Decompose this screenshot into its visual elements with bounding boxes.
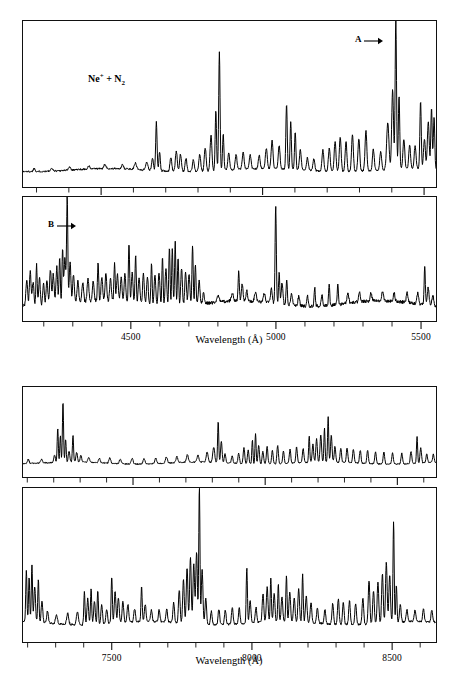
annotation-arrow-A <box>364 36 384 46</box>
axis-title-upper: Wavelength (Å) <box>195 334 262 345</box>
spectrum-panel-4 <box>22 487 437 643</box>
system-label-plus: + N <box>104 73 122 84</box>
system-label: Ne+ + N2 <box>88 72 125 87</box>
spectrum-trace-2 <box>23 197 436 321</box>
annotation-label-A: A <box>355 34 362 44</box>
spectrum-axis-2 <box>22 322 437 332</box>
axis-tick-label: 5000 <box>266 332 286 342</box>
annotation-label-B: B <box>48 219 54 229</box>
system-label-n2-sub: 2 <box>122 79 126 87</box>
spectrum-trace-4 <box>23 488 436 642</box>
axis-title-lower: Wavelength (Å) <box>195 655 262 666</box>
spectrum-trace-3 <box>23 387 436 477</box>
spectrum-figure: 300035004000 450050005500 600065007000 7… <box>0 0 457 688</box>
axis-tick-label: 4500 <box>121 332 141 342</box>
annotation-arrow-B <box>57 221 77 231</box>
spectrum-axis-4 <box>22 643 437 653</box>
axis-tick-label: 8500 <box>382 653 402 663</box>
system-label-ne: Ne <box>88 73 100 84</box>
axis-tick-label: 5500 <box>411 332 431 342</box>
spectrum-panel-3 <box>22 386 437 478</box>
spectrum-panel-2 <box>22 196 437 322</box>
axis-tick-label: 7500 <box>102 653 122 663</box>
